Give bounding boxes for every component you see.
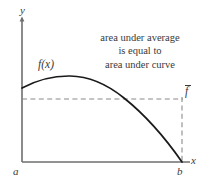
annotation-line-1: area under average [78,31,202,44]
y-axis-label: y [20,5,25,16]
average-value-label-fbar: f [185,85,188,98]
average-value-figure: y x a b f(x) f area under average is equ… [0,0,205,191]
lower-bound-label-a: a [13,166,19,177]
overbar-glyph: f [185,85,188,98]
curve-label-fx: f(x) [38,59,54,71]
annotation-text: area under average is equal to area unde… [78,31,202,71]
y-axis-arrowhead [20,17,25,22]
upper-bound-label-b: b [177,166,183,177]
annotation-line-3: area under curve [78,58,202,71]
plot-canvas [0,0,205,191]
x-axis-label: x [191,155,196,166]
function-curve [22,76,182,162]
annotation-line-2: is equal to [78,44,202,57]
